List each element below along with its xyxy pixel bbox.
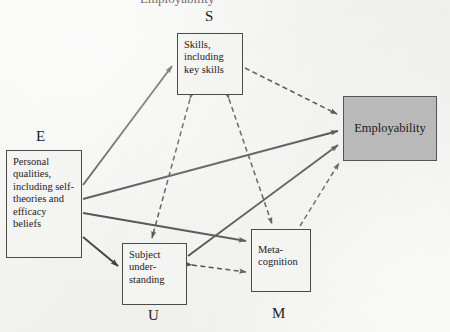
edge-m-to-employability <box>300 163 339 226</box>
edge-s-to-m <box>229 99 272 224</box>
node-metacognition[interactable]: Meta-cognition <box>251 229 311 292</box>
edge-e-to-u <box>83 237 118 266</box>
node-metacognition-label: Meta-cognition <box>258 244 304 269</box>
node-personal-qualities[interactable]: Personal qualities, including self-theor… <box>6 150 82 258</box>
edge-e-to-s <box>83 66 172 185</box>
edge-e-to-m <box>83 213 246 241</box>
edge-u-to-m <box>192 265 246 272</box>
edge-e-to-employability <box>83 131 338 199</box>
node-tag-m: M <box>272 305 285 322</box>
figure-canvas: Employability <box>0 0 450 332</box>
cropped-caption: Employability <box>0 0 450 7</box>
node-tag-s: S <box>205 8 213 25</box>
node-employability-label: Employability <box>350 121 430 136</box>
node-skills-label: Skills, including key skills <box>184 39 236 76</box>
edge-s-to-u <box>152 99 190 238</box>
node-tag-u: U <box>148 307 159 324</box>
edge-s-to-employability <box>245 68 337 114</box>
node-personal-qualities-label: Personal qualities, including self-theor… <box>13 156 75 230</box>
node-skills[interactable]: Skills, including key skills <box>177 33 243 95</box>
node-subject-understanding-label: Subject under-standing <box>129 249 180 286</box>
node-subject-understanding[interactable]: Subject under-standing <box>122 243 187 305</box>
cropped-caption-text: Employability <box>140 0 214 7</box>
node-employability[interactable]: Employability <box>343 96 437 161</box>
node-tag-e: E <box>36 128 45 145</box>
